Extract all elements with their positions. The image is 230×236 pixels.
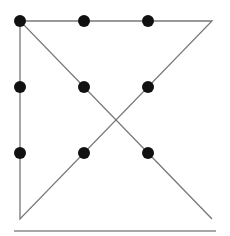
dot-2 [78,15,90,27]
dot-6 [142,81,154,93]
solution-path [20,21,212,219]
dot-1 [14,15,26,27]
dot-5 [78,81,90,93]
nine-dots-diagram [0,0,230,236]
dot-9 [142,147,154,159]
dot-4 [14,81,26,93]
dot-3 [142,15,154,27]
dot-8 [78,147,90,159]
dot-7 [14,147,26,159]
